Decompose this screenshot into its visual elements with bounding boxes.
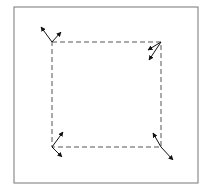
diagram-canvas — [0, 0, 206, 192]
top-left-vector-a-arrow-icon — [41, 27, 52, 42]
bottom-right-vector-b-arrow-icon — [161, 147, 173, 160]
top-left-vector-b-arrow-icon — [52, 32, 61, 42]
top-right-vector-b-arrow-icon — [149, 42, 161, 60]
corner-vectors — [41, 27, 173, 160]
bottom-right-vector-a-arrow-icon — [153, 133, 161, 147]
dashed-square — [52, 42, 161, 147]
top-right-vector-a-arrow-icon — [148, 42, 161, 50]
bottom-left-vector-a-arrow-icon — [52, 132, 63, 147]
bottom-left-vector-b-arrow-icon — [52, 147, 62, 157]
